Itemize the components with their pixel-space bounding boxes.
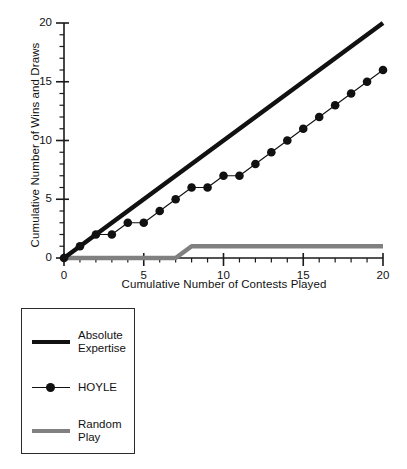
legend-item-hoyle[interactable]: HOYLE — [22, 371, 136, 405]
data-point-hoyle-13 — [267, 148, 276, 157]
data-point-hoyle-1 — [76, 242, 85, 251]
data-point-hoyle-14 — [283, 136, 292, 145]
legend-box: Absolute Expertise HOYLE Random Play — [21, 308, 135, 454]
data-point-hoyle-16 — [315, 113, 324, 122]
data-point-hoyle-19 — [363, 77, 372, 86]
line-with-dot-marker-key — [30, 379, 74, 397]
plot-svg — [0, 0, 407, 300]
data-point-hoyle-3 — [108, 230, 117, 239]
data-point-hoyle-9 — [203, 183, 212, 192]
thick-gray-line-key — [30, 422, 74, 440]
chart-figure: 05101520 05101520 Cumulative Number of W… — [0, 0, 407, 469]
legend-label-hoyle: HOYLE — [78, 381, 117, 395]
data-point-hoyle-20 — [379, 66, 388, 75]
legend-item-random-play[interactable]: Random Play — [22, 414, 136, 448]
data-point-hoyle-10 — [219, 171, 228, 180]
x-axis-title: Cumulative Number of Contests Played — [64, 278, 384, 290]
legend-label-absolute-expertise: Absolute Expertise — [78, 329, 126, 356]
data-point-hoyle-17 — [331, 101, 340, 110]
data-point-hoyle-5 — [139, 218, 148, 227]
series-line-hoyle — [64, 70, 383, 258]
data-point-hoyle-2 — [92, 230, 101, 239]
plot-area: 05101520 05101520 Cumulative Number of W… — [0, 0, 407, 300]
series-line-absolute-expertise — [64, 23, 383, 258]
data-point-hoyle-4 — [124, 218, 133, 227]
data-point-hoyle-8 — [187, 183, 196, 192]
series-markers-hoyle — [60, 66, 388, 263]
data-point-hoyle-6 — [155, 207, 164, 216]
data-point-hoyle-12 — [251, 160, 260, 169]
y-axis-ticks — [56, 23, 69, 258]
data-point-hoyle-15 — [299, 124, 308, 133]
y-axis-title: Cumulative Number of Wins and Draws — [29, 20, 41, 270]
data-point-hoyle-11 — [235, 171, 244, 180]
thick-black-line-key — [30, 333, 74, 351]
data-point-hoyle-0 — [60, 254, 69, 263]
legend-label-random-play: Random Play — [78, 418, 121, 445]
data-point-hoyle-18 — [347, 89, 356, 98]
data-point-hoyle-7 — [171, 195, 180, 204]
legend-item-absolute-expertise[interactable]: Absolute Expertise — [22, 325, 136, 359]
